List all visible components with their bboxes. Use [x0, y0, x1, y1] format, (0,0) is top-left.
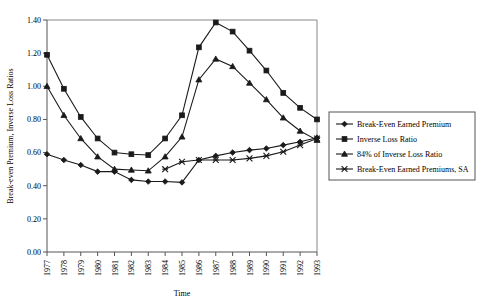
marker-cross: [179, 159, 185, 165]
marker-square: [247, 48, 252, 53]
chart-figure: 0.000.200.400.600.801.001.201.40Break-ev…: [0, 0, 478, 302]
marker-square: [196, 45, 201, 50]
legend-item[interactable]: Break-Even Earned Premium: [336, 120, 452, 129]
marker-diamond: [264, 146, 270, 152]
x-axis: 1977197819791980198119821983198419851986…: [43, 252, 322, 276]
y-tick-label: 0.40: [27, 182, 41, 191]
marker-diamond: [247, 147, 253, 153]
marker-triangle: [213, 56, 219, 61]
marker-diamond: [61, 157, 67, 163]
marker-diamond: [280, 142, 286, 148]
marker-cross: [247, 155, 253, 161]
y-axis: 0.000.200.400.600.801.001.201.40: [27, 16, 47, 257]
x-tick-label: 1989: [246, 260, 255, 276]
x-tick-label: 1978: [60, 260, 69, 276]
marker-diamond: [78, 162, 84, 168]
x-tick-label: 1985: [178, 260, 187, 276]
marker-square: [298, 105, 303, 110]
x-tick-label: 1992: [296, 260, 305, 276]
marker-square: [180, 113, 185, 118]
marker-square: [315, 117, 320, 122]
legend: Break-Even Earned PremiumInverse Loss Ra…: [329, 112, 475, 180]
y-tick-label: 0.20: [27, 215, 41, 224]
x-tick-label: 1981: [111, 260, 120, 276]
x-tick-label: 1988: [229, 260, 238, 276]
legend-item[interactable]: Inverse Loss Ratio: [336, 135, 417, 144]
marker-diamond: [342, 121, 348, 127]
y-tick-label: 1.20: [27, 49, 41, 58]
marker-square: [112, 150, 117, 155]
legend-item-label: Inverse Loss Ratio: [357, 135, 417, 144]
marker-cross: [162, 166, 168, 172]
marker-diamond: [129, 177, 135, 183]
marker-cross: [230, 157, 236, 163]
x-tick-label: 1980: [94, 260, 103, 276]
x-tick-label: 1987: [212, 260, 221, 276]
marker-square: [61, 86, 66, 91]
marker-diamond: [230, 150, 236, 156]
legend-item[interactable]: Break-Even Earned Premiums, SA: [336, 165, 469, 174]
marker-square: [213, 20, 218, 25]
y-tick-label: 1.40: [27, 16, 41, 25]
series-1: [44, 135, 320, 185]
marker-cross: [263, 153, 269, 159]
line-chart: 0.000.200.400.600.801.001.201.40Break-ev…: [0, 0, 478, 302]
x-tick-label: 1984: [161, 260, 170, 276]
legend-item-label: 84% of Inverse Loss Ratio: [357, 150, 442, 159]
marker-diamond: [145, 179, 151, 185]
x-axis-title: Time: [174, 289, 191, 298]
marker-square: [146, 153, 151, 158]
series-group: [44, 20, 320, 185]
x-tick-label: 1991: [279, 260, 288, 276]
y-axis-title: Break-even Premium, Inverse Loss Ratios: [6, 68, 15, 203]
x-tick-label: 1982: [127, 260, 136, 276]
legend-item-label: Break-Even Earned Premium: [357, 120, 452, 129]
x-tick-label: 1979: [77, 260, 86, 276]
marker-square: [129, 152, 134, 157]
marker-square: [342, 137, 347, 142]
x-tick-label: 1983: [144, 260, 153, 276]
legend-item[interactable]: 84% of Inverse Loss Ratio: [336, 150, 442, 159]
x-tick-label: 1990: [262, 260, 271, 276]
y-tick-label: 0.80: [27, 115, 41, 124]
marker-diamond: [162, 179, 168, 185]
marker-cross: [342, 166, 348, 172]
marker-cross: [280, 149, 286, 155]
series-4: [162, 136, 320, 172]
marker-square: [281, 91, 286, 96]
marker-square: [78, 115, 83, 120]
marker-square: [163, 136, 168, 141]
marker-triangle: [61, 112, 67, 117]
y-tick-label: 1.00: [27, 82, 41, 91]
marker-triangle: [179, 134, 185, 139]
x-tick-label: 1986: [195, 260, 204, 276]
y-tick-label: 0.60: [27, 148, 41, 157]
x-tick-label: 1977: [43, 260, 52, 276]
series-line-path: [47, 138, 317, 183]
marker-square: [95, 136, 100, 141]
marker-diamond: [95, 169, 101, 175]
marker-square: [264, 68, 269, 73]
marker-square: [230, 29, 235, 34]
x-tick-label: 1993: [313, 260, 322, 276]
marker-square: [45, 52, 50, 57]
legend-item-label: Break-Even Earned Premiums, SA: [357, 165, 469, 174]
y-tick-label: 0.00: [27, 248, 41, 257]
